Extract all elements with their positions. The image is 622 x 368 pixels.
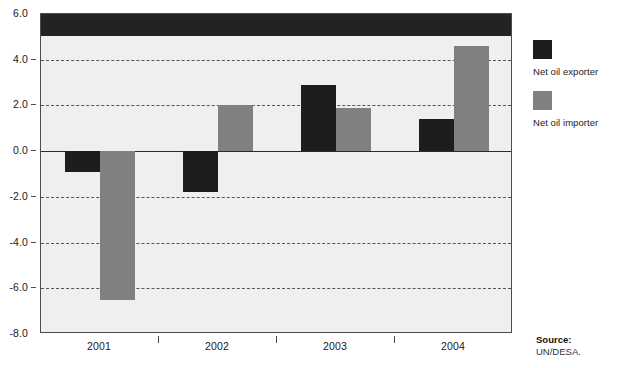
legend-label: Net oil exporter	[533, 66, 617, 77]
y-tick-mark	[31, 287, 36, 288]
legend-item: Net oil exporter	[533, 40, 617, 77]
source-note: Source: UN/DESA.	[536, 334, 622, 358]
y-tick-mark	[31, 150, 36, 151]
bar-2001-exporter	[65, 151, 100, 172]
gridline	[41, 105, 511, 106]
y-tick-label: 0.0	[13, 144, 28, 156]
source-label: Source:	[536, 334, 622, 346]
bar-2001-importer	[100, 151, 135, 300]
x-tick-mark	[276, 336, 277, 343]
y-tick-label: -8.0	[10, 327, 29, 339]
x-tick-mark	[394, 336, 395, 343]
legend: Net oil exporterNet oil importer	[533, 40, 617, 142]
x-tick-label: 2001	[87, 340, 111, 352]
x-tick-mark	[158, 336, 159, 343]
bar-2004-exporter	[419, 119, 454, 151]
source-value: UN/DESA.	[536, 346, 622, 358]
y-tick-mark	[31, 242, 36, 243]
x-axis: 2001200220032004	[40, 336, 512, 360]
chart-figure: 6.04.02.00.0-2.0-4.0-6.0-8.0 20012002200…	[0, 0, 622, 368]
dark-swatch-icon	[533, 40, 552, 59]
x-tick-label: 2004	[441, 340, 465, 352]
y-tick-mark	[31, 59, 36, 60]
legend-item: Net oil importer	[533, 91, 617, 128]
plot-area	[40, 13, 512, 333]
y-tick-label: 6.0	[13, 7, 28, 19]
top-dark-band	[41, 14, 511, 36]
gridline	[41, 60, 511, 61]
y-tick-mark	[31, 196, 36, 197]
y-tick-label: 4.0	[13, 53, 28, 65]
legend-label: Net oil importer	[533, 117, 617, 128]
bar-2003-exporter	[301, 85, 336, 151]
bar-2002-importer	[218, 105, 253, 151]
gray-swatch-icon	[533, 91, 552, 110]
x-tick-label: 2002	[205, 340, 229, 352]
bar-2003-importer	[336, 108, 371, 151]
y-tick-label: -6.0	[10, 281, 29, 293]
y-tick-label: -4.0	[10, 236, 29, 248]
y-tick-mark	[31, 104, 36, 105]
bar-2002-exporter	[183, 151, 218, 192]
y-tick-label: -2.0	[10, 190, 29, 202]
bar-2004-importer	[454, 46, 489, 151]
y-tick-label: 2.0	[13, 98, 28, 110]
x-tick-label: 2003	[323, 340, 347, 352]
y-axis: 6.04.02.00.0-2.0-4.0-6.0-8.0	[0, 13, 36, 333]
